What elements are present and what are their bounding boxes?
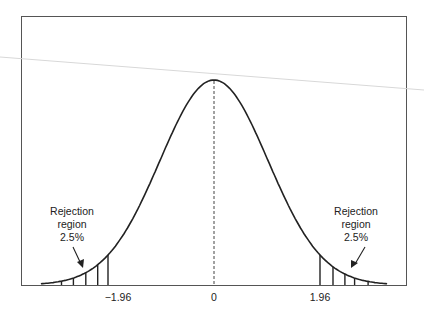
tick-label-left: −1.96: [105, 291, 132, 303]
right-rejection-annotation: Rejection region 2.5%: [334, 205, 378, 268]
right-annotation-line1: Rejection: [334, 205, 378, 217]
left-annotation-line2: region: [57, 218, 86, 230]
left-annotation-line1: Rejection: [50, 205, 94, 217]
right-annotation-line3: 2.5%: [344, 231, 368, 243]
tick-label-right: 1.96: [310, 291, 331, 303]
left-rejection-annotation: Rejection region 2.5%: [50, 205, 94, 268]
left-rejection-hatching: [62, 255, 109, 285]
left-arrowhead-icon: [77, 259, 84, 268]
scan-glare-line: [0, 57, 424, 90]
left-annotation-line3: 2.5%: [60, 231, 84, 243]
right-arrow-icon: [355, 247, 365, 264]
right-annotation-line2: region: [341, 218, 370, 230]
tick-label-center: 0: [211, 291, 217, 303]
normal-distribution-chart: −1.96 0 1.96 Rejection region 2.5% Rejec…: [0, 0, 424, 320]
